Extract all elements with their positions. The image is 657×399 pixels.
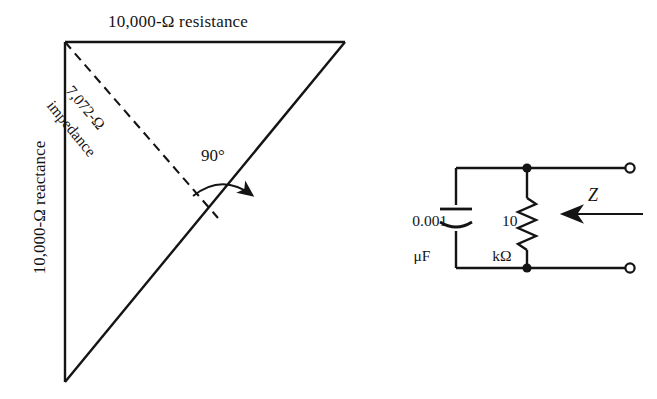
resistance-label: 10,000-Ω resistance [108,12,248,31]
triangle-hypotenuse [65,42,345,382]
resistor-value: 10 [502,212,518,229]
angle-label: 90° [201,146,225,165]
capacitor-unit: μF [392,247,452,264]
capacitor-value: 0.001 [412,212,447,229]
resistor-label: 10 kΩ [484,195,520,299]
resistor-unit: kΩ [484,247,520,264]
figure-root: 10,000-Ω resistance 10,000-Ω reactance 7… [0,0,657,399]
terminal-top [625,163,634,172]
resistor-zigzag [518,198,536,250]
reactance-label: 10,000-Ω reactance [30,108,49,308]
impedance-triangle [65,42,345,382]
impedance-arrow-label: Z [588,185,598,205]
junction-node-bottom [522,263,531,272]
terminal-bottom [625,263,634,272]
capacitor-label: 0.001 μF [392,195,452,299]
impedance-dashed-line [65,42,218,218]
figure-canvas [0,0,657,399]
rc-circuit [440,163,643,272]
junction-node-top [522,163,531,172]
